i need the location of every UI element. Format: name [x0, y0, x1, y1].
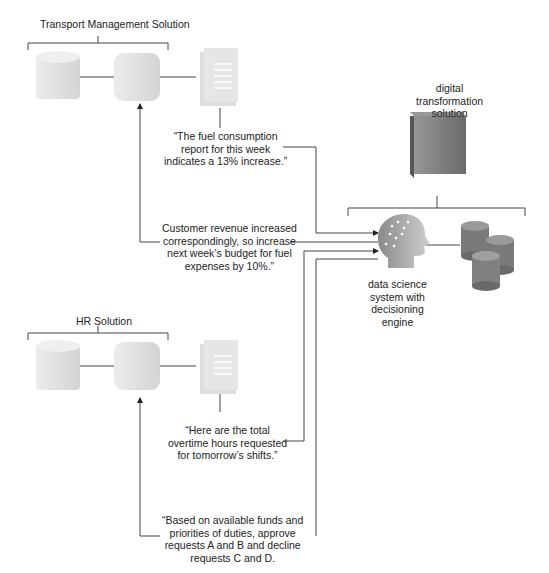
- document-report-icon-transport: [200, 48, 238, 106]
- line: system with: [368, 291, 427, 304]
- line: indicates a 13% increase.”: [164, 155, 287, 168]
- revenue-to-app-arrow: [140, 104, 160, 242]
- hr-bracket: [28, 326, 168, 340]
- transport-solution-title: Transport Management Solution: [40, 18, 190, 31]
- line: overtime hours requested: [168, 437, 287, 450]
- line: transformation: [416, 95, 483, 108]
- line: next week’s budget for fuel: [162, 247, 297, 260]
- line: “The fuel consumption: [164, 130, 287, 143]
- fuel-report-message: “The fuel consumption report for this we…: [164, 130, 287, 168]
- approval-response-message: “Based on available funds and priorities…: [162, 514, 303, 564]
- line: correspondingly, so increase: [162, 235, 297, 248]
- database-icon-hr: [36, 340, 80, 390]
- hr-solution-title: HR Solution: [76, 315, 132, 328]
- fuel-report-arrow: [283, 147, 378, 233]
- line: for tomorrow’s shifts.”: [168, 449, 287, 462]
- line: report for this week: [164, 143, 287, 156]
- line: Customer revenue increased: [162, 222, 297, 235]
- transport-bracket: [28, 36, 168, 50]
- database-cluster-icon: [461, 221, 514, 291]
- line: digital: [416, 82, 483, 95]
- approval-to-app-arrow: [140, 398, 160, 536]
- server-cube-icon: [410, 112, 466, 178]
- digital-solution-title: digital transformation solution: [416, 82, 483, 120]
- line: “Here are the total: [168, 424, 287, 437]
- application-icon-transport: [114, 53, 160, 101]
- line: requests C and D.: [162, 552, 303, 565]
- line: expenses by 10%.”: [162, 260, 297, 273]
- line: “Based on available funds and: [162, 514, 303, 527]
- digital-bracket: [348, 196, 525, 216]
- fuel-budget-response: Customer revenue increased corresponding…: [162, 222, 297, 272]
- document-report-icon-hr: [200, 340, 238, 394]
- line: data science: [368, 278, 427, 291]
- line: engine: [368, 316, 427, 329]
- head-brain-icon: [378, 214, 430, 268]
- overtime-report-arrow: [283, 251, 378, 441]
- line: requests A and B and decline: [162, 539, 303, 552]
- line: priorities of duties, approve: [162, 527, 303, 540]
- database-icon-transport: [36, 51, 80, 99]
- line: decisioning: [368, 303, 427, 316]
- engine-label: data science system with decisioning eng…: [368, 278, 427, 328]
- overtime-report-message: “Here are the total overtime hours reque…: [168, 424, 287, 462]
- line: solution: [416, 107, 483, 120]
- application-icon-hr: [114, 342, 160, 390]
